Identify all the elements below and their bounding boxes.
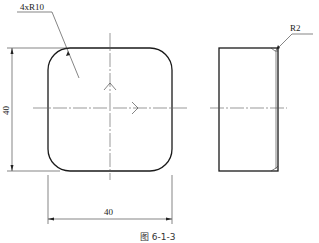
arrowhead-icon [48, 218, 54, 221]
side-view-outline [219, 48, 278, 171]
corner-radius-label: 4xR10 [20, 2, 45, 12]
edge-radius-label: R2 [290, 23, 301, 33]
width-dimension-label: 40 [104, 207, 114, 217]
side-view-chamfer-bottom [271, 166, 278, 171]
technical-drawing: 40 40 4xR10 R2 图 6-1-3 [0, 0, 319, 243]
arrowhead-icon [11, 48, 14, 54]
figure-caption: 图 6-1-3 [140, 232, 176, 242]
arrowhead-icon [11, 165, 14, 171]
edge-radius-leader [277, 34, 313, 49]
height-dimension-label: 40 [1, 106, 11, 116]
arrowhead-icon [166, 218, 172, 221]
